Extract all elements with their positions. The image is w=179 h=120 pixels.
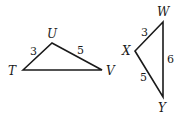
triangles-diagram: T U V 3 5 W X Y 3 5 6 xyxy=(0,0,179,120)
vertex-label-w: W xyxy=(157,5,171,19)
vertex-label-v: V xyxy=(106,64,116,78)
side-label-tu: 3 xyxy=(30,45,37,58)
side-label-wx: 3 xyxy=(141,26,148,39)
vertex-label-y: Y xyxy=(158,101,167,115)
side-label-xy: 5 xyxy=(140,71,147,84)
vertex-label-t: T xyxy=(8,64,17,78)
vertex-label-u: U xyxy=(47,27,58,41)
triangle-wxy xyxy=(135,22,163,97)
side-label-uv: 5 xyxy=(77,44,84,57)
vertex-label-x: X xyxy=(121,44,131,58)
side-label-wy: 6 xyxy=(167,53,174,66)
